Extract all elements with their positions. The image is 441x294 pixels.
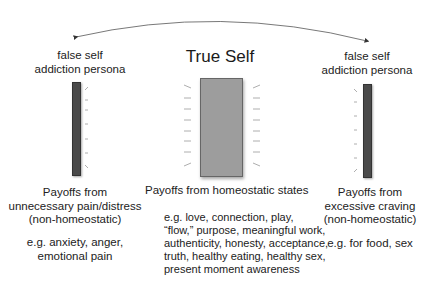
center-example-line: truth, healthy eating, healthy sex,	[164, 250, 328, 263]
right-example-line: e.g. for food, sex	[310, 237, 430, 251]
center-example-line: present moment awareness	[164, 263, 328, 276]
true-self-title: True Self	[150, 47, 290, 67]
left-persona-title: false self addiction persona	[20, 49, 140, 76]
left-false-self-bar	[72, 82, 81, 176]
right-title-line1: false self	[307, 50, 427, 64]
left-radiating-ticks-icon	[85, 87, 88, 168]
right-title-line2: addiction persona	[307, 64, 427, 78]
left-payoff-line: unnecessary pain/distress	[5, 200, 145, 214]
left-payoff-label: Payoffs from unnecessary pain/distress (…	[5, 186, 145, 227]
right-radiating-ticks-icon	[354, 89, 357, 172]
center-example-line: e.g. love, connection, play,	[164, 211, 328, 224]
curved-double-arrow-icon	[76, 21, 367, 41]
left-examples: e.g. anxiety, anger, emotional pain	[5, 236, 145, 263]
center-payoff-label: Payoffs from homeostatic states	[145, 184, 305, 198]
left-title-line2: addiction persona	[20, 63, 140, 77]
left-payoff-line: (non-homeostatic)	[5, 213, 145, 227]
right-payoff-line: excessive craving	[310, 200, 430, 214]
center-example-line: authenticity, honesty, acceptance,	[164, 237, 328, 250]
center-example-line: “flow,” purpose, meaningful work,	[164, 224, 328, 237]
right-examples: e.g. for food, sex	[310, 237, 430, 251]
right-payoff-line: Payoffs from	[310, 186, 430, 200]
right-persona-title: false self addiction persona	[307, 50, 427, 77]
left-title-line1: false self	[20, 49, 140, 63]
left-example-line: emotional pain	[5, 250, 145, 264]
left-example-line: e.g. anxiety, anger,	[5, 236, 145, 250]
left-payoff-line: Payoffs from	[5, 186, 145, 200]
right-payoff-label: Payoffs from excessive craving (non-home…	[310, 186, 430, 227]
true-self-bar	[200, 78, 243, 177]
right-false-self-bar	[363, 84, 372, 178]
right-payoff-line: (non-homeostatic)	[310, 213, 430, 227]
center-examples: e.g. love, connection, play, “flow,” pur…	[164, 211, 328, 276]
